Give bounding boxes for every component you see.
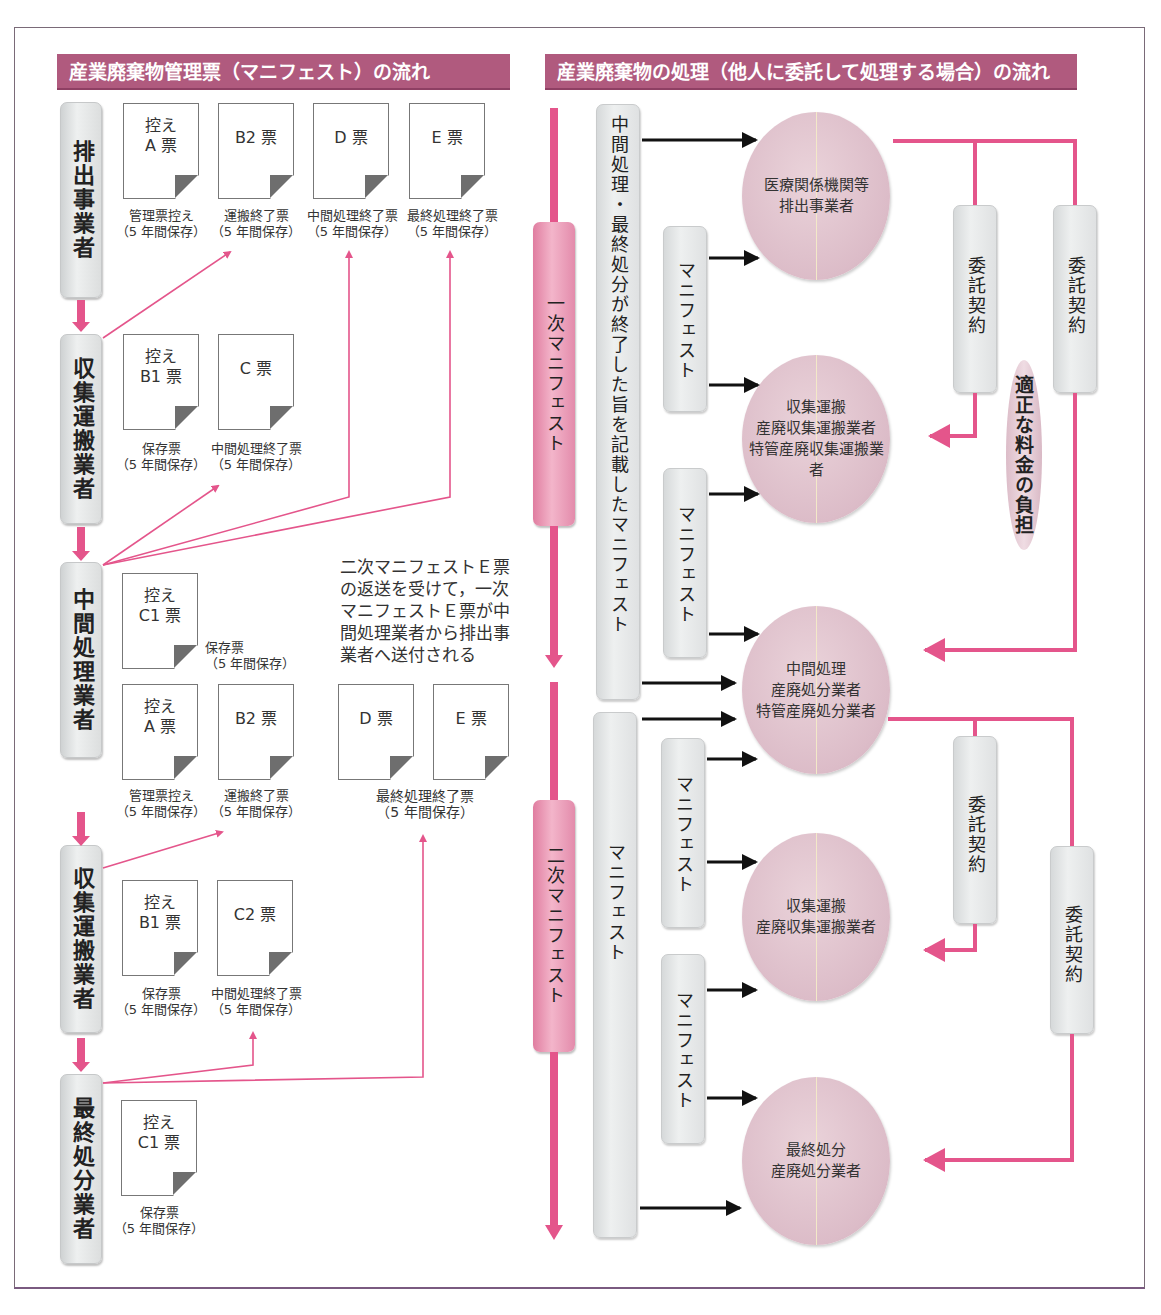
manifest-slip-c2: C2 票 bbox=[217, 880, 293, 976]
secondary-manifest-bar: 二次マニフェスト bbox=[533, 800, 575, 1052]
actor-label: 排出事業者 bbox=[65, 140, 97, 260]
contract-box: 委託契約 bbox=[1053, 205, 1097, 393]
down-arrow-icon bbox=[72, 812, 82, 846]
down-arrow-icon bbox=[72, 300, 82, 332]
manifest-box: マニフェスト bbox=[661, 738, 705, 928]
contract-box: 委託契約 bbox=[953, 736, 997, 924]
fair-fee-label: 適正な料金の負担 bbox=[1011, 375, 1038, 535]
down-arrow-icon bbox=[72, 527, 82, 561]
manifest-slip-a: 控え A 票 bbox=[122, 684, 198, 780]
manifest-slip-a: 控え A 票 bbox=[123, 103, 199, 199]
slip-caption: 保存票 （5 年間保存） bbox=[205, 640, 305, 672]
circle-final-disposal: 最終処分 産廃処分業者 bbox=[742, 1077, 890, 1245]
manifest-slip-b1: 控え B1 票 bbox=[122, 880, 198, 976]
manifest-slip-e: E 票 bbox=[433, 684, 509, 780]
down-arrow-icon bbox=[72, 1038, 82, 1072]
return-note: 二次マニフェストＥ票 の返送を受けて，一次 マニフェストＥ票が中 間処理業者から… bbox=[340, 556, 520, 666]
primary-manifest-label: 一次マニフェスト bbox=[541, 294, 567, 454]
actor-intermediate-processor: 中間処理業者 bbox=[60, 562, 102, 758]
slip-caption: 管理票控え （5 年間保存） bbox=[109, 208, 213, 240]
slip-caption: 運搬終了票 （5 年間保存） bbox=[204, 208, 308, 240]
manifest-slip-c: C 票 bbox=[218, 334, 294, 430]
manifest-slip-c1: 控え C1 票 bbox=[121, 1100, 197, 1196]
right-panel-title: 産業廃棄物の処理（他人に委託して処理する場合）の流れ bbox=[545, 54, 1077, 90]
slip-caption: 最終処理終了票 （5 年間保存） bbox=[400, 208, 504, 240]
manifest-box: マニフェスト bbox=[663, 226, 707, 412]
contract-box: 委託契約 bbox=[1050, 846, 1094, 1034]
slip-caption: 中間処理終了票 （5 年間保存） bbox=[204, 986, 308, 1018]
contract-box: 委託契約 bbox=[953, 205, 997, 393]
actor-label: 中間処理業者 bbox=[65, 588, 97, 732]
actor-label: 収集運搬業者 bbox=[65, 867, 97, 1011]
completed-manifest-bar: 中間処理・最終処分が終了した旨を記載したマニフェスト bbox=[596, 104, 640, 700]
slip-caption: 中間処理終了票 （5 年間保存） bbox=[204, 441, 308, 473]
actor-final-disposal: 最終処分業者 bbox=[60, 1074, 102, 1264]
slip-caption: 保存票 （5 年間保存） bbox=[107, 1205, 211, 1237]
secondary-manifest-flow-bar: マニフェスト bbox=[593, 712, 637, 1238]
manifest-slip-c1: 控え C1 票 bbox=[122, 573, 198, 669]
slip-caption: 中間処理終了票 （5 年間保存） bbox=[300, 208, 404, 240]
manifest-box: マニフェスト bbox=[663, 468, 707, 658]
slip-caption: 保存票 （5 年間保存） bbox=[109, 441, 213, 473]
slip-caption: 保存票 （5 年間保存） bbox=[109, 986, 213, 1018]
actor-label: 最終処分業者 bbox=[65, 1097, 97, 1241]
secondary-manifest-label: 二次マニフェスト bbox=[541, 846, 567, 1006]
circle-collector-2: 収集運搬 産廃収集運搬業者 bbox=[742, 833, 890, 1001]
manifest-slip-b2: B2 票 bbox=[218, 684, 294, 780]
manifest-slip-d: D 票 bbox=[338, 684, 414, 780]
circle-intermediate-processor: 中間処理 産廃処分業者 特管産廃処分業者 bbox=[742, 606, 890, 774]
actor-label: 収集運搬業者 bbox=[65, 357, 97, 501]
actor-collector-2: 収集運搬業者 bbox=[60, 845, 102, 1033]
circle-emitter: 医療関係機関等 排出事業者 bbox=[742, 112, 890, 280]
fair-fee-ellipse: 適正な料金の負担 bbox=[1006, 360, 1042, 550]
manifest-slip-b2: B2 票 bbox=[218, 103, 294, 199]
slip-caption: 管理票控え （5 年間保存） bbox=[109, 788, 213, 820]
manifest-slip-d: D 票 bbox=[313, 103, 389, 199]
actor-emitter: 排出事業者 bbox=[60, 102, 102, 298]
manifest-label: マニフェスト bbox=[602, 843, 628, 963]
manifest-slip-e: E 票 bbox=[409, 103, 485, 199]
manifest-box: マニフェスト bbox=[661, 954, 705, 1144]
slip-caption: 運搬終了票 （5 年間保存） bbox=[204, 788, 308, 820]
left-panel-title: 産業廃棄物管理票（マニフェスト）の流れ bbox=[57, 54, 510, 90]
primary-manifest-bar: 一次マニフェスト bbox=[533, 222, 575, 526]
manifest-slip-b1: 控え B1 票 bbox=[123, 334, 199, 430]
actor-collector-1: 収集運搬業者 bbox=[60, 334, 102, 524]
completed-manifest-label: 中間処理・最終処分が終了した旨を記載したマニフェスト bbox=[605, 115, 631, 635]
slip-caption: 最終処理終了票 （5 年間保存） bbox=[345, 788, 505, 820]
circle-collector-1: 収集運搬 産廃収集運搬業者 特管産廃収集運搬業者 bbox=[742, 355, 890, 523]
